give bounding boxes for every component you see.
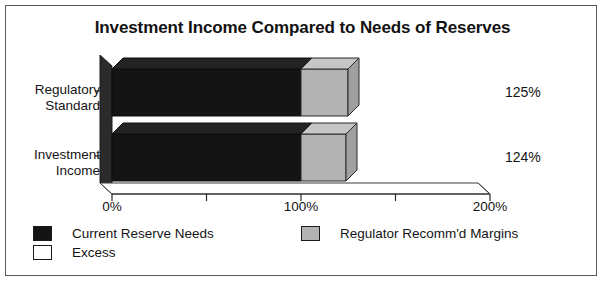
- y-axis-label-line-1: Investment: [8, 147, 100, 163]
- bar-0-segment-current-reserve-needs-top: [112, 58, 312, 69]
- y-axis-label-investment-income: Investment Income: [8, 147, 100, 179]
- x-axis-tick-label-0: 0%: [77, 199, 147, 214]
- legend-item-regulator-margins: Regulator Recomm'd Margins: [301, 226, 518, 241]
- bar-0-segment-regulator-margins-front: [301, 69, 348, 116]
- legend-label-regulator-margins: Regulator Recomm'd Margins: [340, 226, 518, 241]
- legend-swatch-icon-current-reserve-needs: [33, 226, 52, 241]
- y-axis-label-line-2: Income: [8, 163, 100, 179]
- y-axis-label-regulatory-standard: Regulatory Standard: [8, 82, 100, 114]
- y-axis-label-line-1: Regulatory: [8, 82, 100, 98]
- bar-1-segment-regulator-margins-front: [301, 134, 346, 181]
- bar-0-segment-regulator-margins-side: [348, 58, 359, 116]
- chart-legend: Current Reserve Needs Excess Regulator R…: [0, 224, 605, 270]
- axis-floor: [100, 183, 490, 194]
- x-axis-tick-label-100: 100%: [266, 199, 336, 214]
- legend-label-excess: Excess: [72, 245, 116, 260]
- bar-1-segment-current-reserve-needs-top: [112, 123, 312, 134]
- axis-wall-side: [100, 55, 112, 194]
- legend-label-current-reserve-needs: Current Reserve Needs: [72, 226, 214, 241]
- data-label-investment-income: 124%: [505, 149, 575, 165]
- legend-swatch-icon-regulator-margins: [301, 226, 320, 241]
- bar-1-segment-regulator-margins-side: [346, 123, 357, 181]
- bar-1-segment-current-reserve-needs-front: [112, 134, 301, 181]
- data-label-regulatory-standard: 125%: [505, 84, 575, 100]
- bar-0-segment-current-reserve-needs-front: [112, 69, 301, 116]
- legend-item-current-reserve-needs: Current Reserve Needs: [33, 226, 214, 241]
- legend-item-excess: Excess: [33, 245, 116, 260]
- x-axis-tick-label-200: 200%: [455, 199, 525, 214]
- chart-container: Investment Income Compared to Needs of R…: [0, 0, 605, 283]
- y-axis-label-line-2: Standard: [8, 98, 100, 114]
- legend-swatch-icon-excess: [33, 245, 52, 260]
